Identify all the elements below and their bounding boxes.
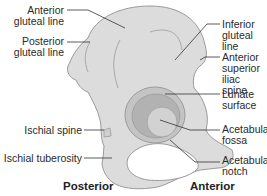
label-line: gluteal line [222, 30, 267, 52]
label-acetabular-fossa: Acetabular fossa [222, 124, 267, 146]
label-line: Ischial spine [0, 125, 82, 136]
label-line: gluteal line [10, 47, 64, 58]
label-line: Ischial tuberosity [0, 153, 82, 164]
label-inferior-gluteal-line: Inferior gluteal line [222, 19, 267, 52]
orientation-posterior: Posterior [63, 181, 114, 192]
label-lunate-surface: Lunate surface [222, 89, 256, 111]
label-line: gluteal line [10, 16, 64, 27]
label-acetabular-notch: Acetabular notch [222, 155, 267, 177]
label-posterior-gluteal-line: Posterior gluteal line [10, 36, 64, 58]
label-line: fossa [222, 135, 267, 146]
label-ischial-tuberosity: Ischial tuberosity [0, 153, 82, 164]
acetabular-fossa-shape [147, 107, 177, 137]
orientation-anterior: Anterior [190, 181, 235, 192]
ischial-spine-shape [104, 128, 111, 137]
label-line: surface [222, 100, 256, 111]
label-line: notch [222, 166, 267, 177]
label-anterior-gluteal-line: Anterior gluteal line [10, 5, 64, 27]
label-ischial-spine: Ischial spine [0, 125, 82, 136]
